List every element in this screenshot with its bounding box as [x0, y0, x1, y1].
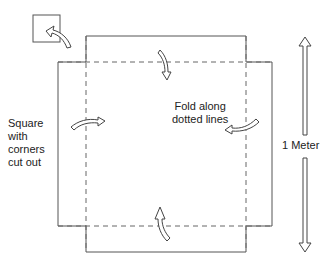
curved-arrow-left-icon: [71, 117, 105, 130]
curved-arrow-corner-icon: [46, 26, 71, 48]
square-label-line: with: [8, 130, 45, 143]
fold-instruction-label: Fold along dotted lines: [172, 100, 228, 126]
curved-arrow-top-icon: [158, 50, 171, 80]
square-label-line: Square: [8, 117, 45, 130]
cut-corner-square: [33, 15, 60, 42]
dimension-label: 1 Meter: [282, 137, 319, 154]
diagram-canvas: [0, 0, 336, 266]
square-label-line: cut out: [8, 156, 45, 169]
square-label: Square with corners cut out: [8, 117, 45, 169]
dimension-arrow-up: [299, 37, 311, 135]
square-label-line: corners: [8, 143, 45, 156]
fold-label-line: Fold along: [172, 100, 228, 113]
fold-label-line: dotted lines: [172, 113, 228, 126]
curved-arrow-right-icon: [225, 119, 259, 134]
curved-arrow-bottom-icon: [155, 207, 170, 241]
dimension-arrow-down: [299, 158, 311, 252]
